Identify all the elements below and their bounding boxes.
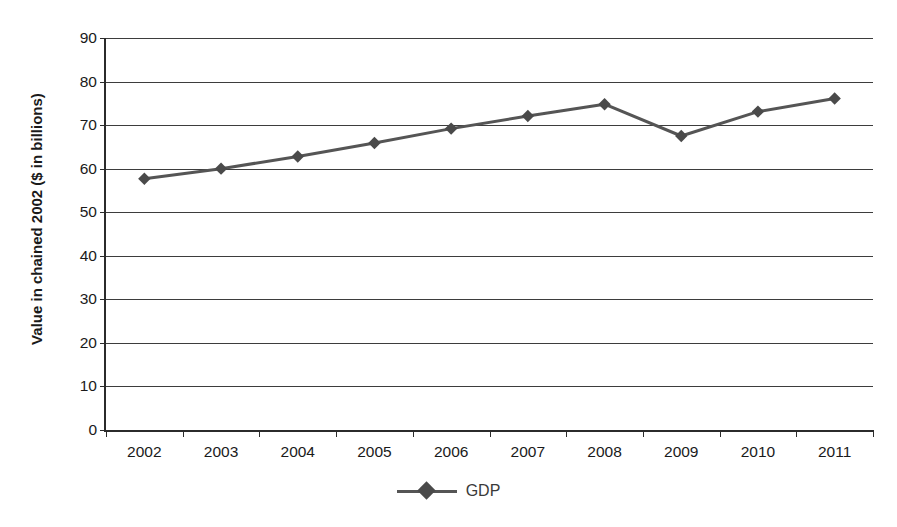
y-tick-label: 10: [80, 377, 97, 395]
y-axis-title: Value in chained 2002 ($ in billions): [14, 4, 58, 434]
x-tick-label: 2011: [818, 443, 851, 461]
x-tick-label: 2002: [127, 443, 161, 461]
x-tick-mark: [566, 430, 567, 437]
y-tick-label: 50: [80, 203, 97, 221]
y-tick-label: 70: [80, 116, 97, 134]
x-tick-mark: [106, 430, 107, 437]
y-tick-label: 40: [80, 247, 97, 265]
y-tick-label: 20: [80, 334, 97, 352]
y-tick-label: 30: [80, 290, 97, 308]
x-tick-mark: [873, 430, 874, 437]
data-point-marker: [598, 98, 610, 110]
x-tick-label: 2004: [281, 443, 315, 461]
diamond-marker-icon: [417, 481, 435, 499]
x-tick-mark: [796, 430, 797, 437]
x-tick-label: 2007: [511, 443, 545, 461]
data-point-marker: [138, 172, 150, 184]
data-point-marker: [828, 92, 840, 104]
x-tick-mark: [643, 430, 644, 437]
data-point-marker: [445, 122, 457, 134]
x-tick-label: 2010: [741, 443, 775, 461]
y-tick-label: 90: [80, 29, 97, 47]
y-tick-label: 60: [80, 160, 97, 178]
legend-label-gdp: GDP: [466, 482, 501, 500]
x-tick-label: 2005: [357, 443, 391, 461]
plot-area: 0102030405060708090 20022003200420052006…: [104, 38, 873, 432]
x-tick-mark: [183, 430, 184, 437]
data-point-marker: [368, 137, 380, 149]
gdp-line-chart: Value in chained 2002 ($ in billions) 01…: [0, 0, 897, 527]
x-tick-mark: [490, 430, 491, 437]
x-tick-mark: [259, 430, 260, 437]
x-tick-mark: [413, 430, 414, 437]
y-tick-label: 0: [88, 421, 97, 439]
data-point-marker: [522, 110, 534, 122]
data-point-marker: [675, 130, 687, 142]
x-tick-label: 2003: [204, 443, 238, 461]
x-tick-label: 2008: [587, 443, 621, 461]
series-line: [144, 99, 834, 179]
x-tick-label: 2006: [434, 443, 468, 461]
x-tick-label: 2009: [664, 443, 698, 461]
x-tick-mark: [336, 430, 337, 437]
series-gdp: [106, 38, 873, 430]
x-tick-mark: [720, 430, 721, 437]
data-point-marker: [752, 105, 764, 117]
data-point-marker: [215, 162, 227, 174]
legend-swatch-gdp: [397, 483, 457, 499]
chart-legend: GDP: [0, 482, 897, 500]
y-tick-label: 80: [80, 73, 97, 91]
data-point-marker: [292, 150, 304, 162]
